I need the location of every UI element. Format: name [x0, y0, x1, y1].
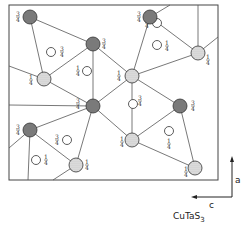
svg-text:4: 4 [16, 16, 20, 23]
svg-text:4: 4 [137, 16, 141, 23]
compound-subscript: 3 [200, 216, 204, 224]
height-fraction-label: 14 [85, 158, 89, 171]
bond-line [132, 53, 198, 76]
dotted-atom [191, 46, 205, 60]
dotted-atom [37, 72, 51, 86]
open-atom [165, 127, 174, 136]
svg-text:4: 4 [44, 159, 48, 166]
dark-atom [86, 37, 100, 51]
svg-text:4: 4 [206, 59, 210, 66]
height-fraction-label: 14 [167, 137, 171, 150]
height-fraction-label: 34 [137, 10, 141, 23]
dotted-atom [188, 161, 202, 175]
svg-text:4: 4 [85, 164, 89, 171]
bond-line [76, 106, 93, 165]
height-fraction-label: 14 [76, 64, 80, 77]
axis-c-label: c [209, 200, 214, 210]
dotted-atom [69, 158, 83, 172]
compound-title: CuTaS3 [173, 211, 205, 224]
axis-a-label: a [235, 175, 241, 185]
height-fraction-label: 14 [120, 135, 124, 148]
height-fraction-label: 34 [16, 10, 20, 23]
svg-text:4: 4 [138, 100, 142, 107]
dark-atom [23, 10, 37, 24]
open-atom [153, 41, 162, 50]
svg-text:4: 4 [60, 51, 64, 58]
bond-line [28, 130, 30, 180]
bond-line [30, 17, 44, 79]
height-fraction-label: 34 [102, 37, 106, 50]
axis-c-arrowhead-icon [191, 195, 197, 199]
crystal-structure-diagram: 3414341434143414 34341434143414341434141… [0, 0, 247, 229]
svg-text:4: 4 [167, 143, 171, 150]
dark-atom [173, 99, 187, 113]
svg-text:4: 4 [76, 70, 80, 77]
open-atom [32, 156, 41, 165]
svg-text:4: 4 [120, 141, 124, 148]
bond-line [93, 106, 132, 140]
svg-text:4: 4 [102, 43, 106, 50]
bond-line [30, 106, 93, 130]
svg-text:4: 4 [184, 171, 188, 178]
bond-line [132, 140, 195, 168]
svg-text:4: 4 [76, 103, 80, 110]
height-fraction-label: 14 [44, 153, 48, 166]
bond-line [9, 105, 93, 106]
svg-text:4: 4 [29, 79, 33, 86]
height-fraction-label: 34 [55, 133, 59, 146]
bond-line [132, 106, 180, 140]
axis-a-arrowhead-icon [230, 156, 234, 162]
height-fraction-label: 14 [184, 165, 188, 178]
open-atom [129, 100, 138, 109]
height-fraction-label: 34 [76, 97, 80, 110]
svg-text:4: 4 [165, 45, 169, 52]
compound-formula: CuTaS [173, 211, 201, 221]
height-fraction-label: 14 [165, 39, 169, 52]
svg-text:4: 4 [191, 105, 195, 112]
svg-text:4: 4 [117, 75, 121, 82]
height-fraction-label: 34 [191, 99, 195, 112]
height-fraction-label: 14 [206, 53, 210, 66]
open-atom [47, 48, 56, 57]
bond-line [93, 44, 132, 76]
bond-line [30, 17, 93, 44]
bond-line [180, 106, 195, 168]
svg-text:4: 4 [16, 129, 20, 136]
dark-atom [23, 123, 37, 137]
height-fraction-label: 34 [16, 123, 20, 136]
open-atom [83, 67, 92, 76]
dark-atom [143, 10, 157, 24]
dotted-atom [125, 133, 139, 147]
height-fraction-label: 14 [117, 69, 121, 82]
svg-text:4: 4 [55, 139, 59, 146]
bond-line [44, 79, 93, 106]
unit-cell-frame [9, 5, 218, 180]
height-fraction-label: 34 [60, 45, 64, 58]
bond-lines [9, 5, 218, 180]
open-atom [63, 136, 72, 145]
dark-atom [86, 99, 100, 113]
height-fraction-label: 34 [138, 94, 142, 107]
dotted-atom [125, 69, 139, 83]
height-fraction-label: 14 [29, 73, 33, 86]
